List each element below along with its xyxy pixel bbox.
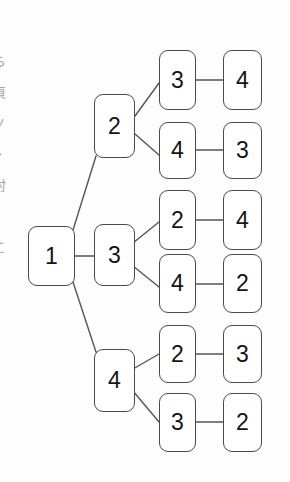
tree-node-l2b: 3 (94, 224, 135, 286)
tree-node-label: 4 (236, 69, 249, 92)
tree-node-l4r6: 2 (223, 393, 262, 452)
tree-node-label: 1 (45, 245, 58, 268)
tree-node-l3r1: 3 (159, 50, 196, 110)
tree-edge (133, 266, 159, 287)
tree-node-l4r3: 4 (223, 190, 262, 250)
tree-node-l4r4: 2 (223, 254, 262, 313)
tree-node-root: 1 (28, 226, 75, 286)
tree-node-label: 2 (171, 343, 184, 366)
tree-node-label: 2 (108, 115, 121, 138)
tree-edge (133, 391, 159, 422)
tree-diagram: ら頁ノ・村。こ 1234342423434232 (0, 0, 290, 482)
tree-node-label: 2 (171, 209, 184, 232)
tree-edge (135, 83, 159, 116)
tree-node-label: 2 (236, 272, 249, 295)
tree-node-l2c: 4 (94, 349, 135, 412)
tree-node-label: 3 (236, 139, 249, 162)
tree-node-l3r5: 2 (159, 325, 196, 383)
tree-node-l3r6: 3 (159, 393, 196, 452)
tree-node-label: 2 (236, 411, 249, 434)
tree-edge (133, 222, 159, 243)
tree-node-label: 3 (171, 69, 184, 92)
tree-node-label: 4 (236, 209, 249, 232)
tree-edge (73, 282, 96, 352)
tree-node-l4r5: 3 (223, 325, 262, 383)
tree-node-l3r2: 4 (159, 122, 196, 179)
tree-edge (73, 156, 96, 230)
tree-node-l3r4: 4 (159, 254, 196, 313)
tree-edge (135, 134, 159, 155)
tree-node-l4r1: 4 (223, 50, 262, 110)
tree-node-label: 4 (171, 272, 184, 295)
tree-node-l4r2: 3 (223, 122, 262, 179)
tree-edge (133, 354, 159, 369)
tree-node-l3r3: 2 (159, 190, 196, 250)
tree-node-l2a: 2 (94, 94, 135, 158)
tree-node-label: 3 (108, 244, 121, 267)
tree-node-label: 4 (108, 369, 121, 392)
tree-node-label: 3 (236, 343, 249, 366)
tree-node-label: 3 (171, 411, 184, 434)
tree-node-label: 4 (171, 139, 184, 162)
